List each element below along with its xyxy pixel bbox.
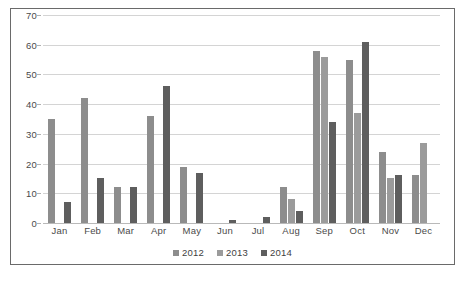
legend-label-2013: 2013: [226, 247, 248, 258]
bar-group-nov: [374, 15, 407, 223]
legend-swatch-2014-icon: [261, 250, 267, 256]
bar-2014-may: [196, 173, 203, 224]
bar-2012-may: [180, 167, 187, 223]
legend-swatch-2013-icon: [217, 250, 223, 256]
y-tick-label-60: 60: [26, 39, 37, 50]
bar-group-jun: [208, 15, 241, 223]
legend-item-2013[interactable]: 2013: [217, 247, 248, 258]
y-tick-mark-50: [37, 74, 41, 75]
y-tick-mark-70: [37, 15, 41, 16]
y-tick-mark-10: [37, 193, 41, 194]
bar-group-sep: [308, 15, 341, 223]
x-tick-label-nov: Nov: [382, 225, 400, 236]
legend-label-2012: 2012: [182, 247, 204, 258]
y-tick-mark-20: [37, 164, 41, 165]
bar-group-dec: [407, 15, 440, 223]
x-axis: JanFebMarAprMayJunJulAugSepOctNovDec: [43, 225, 440, 243]
bar-group-jul: [242, 15, 275, 223]
bar-2013-aug: [288, 199, 295, 223]
y-tick-label-50: 50: [26, 69, 37, 80]
bar-2014-jul: [263, 217, 270, 223]
bar-2012-sep: [313, 51, 320, 223]
y-tick-label-20: 20: [26, 158, 37, 169]
bar-2012-mar: [114, 187, 121, 223]
legend-item-2014[interactable]: 2014: [261, 247, 292, 258]
x-tick-label-mar: Mar: [117, 225, 134, 236]
x-tick-label-oct: Oct: [350, 225, 365, 236]
x-tick-label-feb: Feb: [84, 225, 101, 236]
y-tick-mark-30: [37, 134, 41, 135]
bar-2012-dec: [412, 175, 419, 223]
x-tick-label-jan: Jan: [52, 225, 68, 236]
legend-swatch-2012-icon: [173, 250, 179, 256]
bars-layer: [43, 15, 440, 223]
y-axis: 010203040506070: [11, 15, 41, 223]
bar-2012-aug: [280, 187, 287, 223]
bar-group-mar: [109, 15, 142, 223]
y-tick-mark-60: [37, 45, 41, 46]
chart-legend: 201220132014: [11, 247, 454, 258]
y-tick-label-70: 70: [26, 10, 37, 21]
bar-2012-oct: [346, 60, 353, 223]
x-tick-label-apr: Apr: [151, 225, 166, 236]
y-tick-mark-0: [37, 223, 41, 224]
bar-2014-apr: [163, 86, 170, 223]
bar-2012-apr: [147, 116, 154, 223]
bar-2013-sep: [321, 57, 328, 223]
bar-2014-mar: [130, 187, 137, 223]
legend-item-2012[interactable]: 2012: [173, 247, 204, 258]
x-tick-label-jul: Jul: [252, 225, 265, 236]
bar-2014-nov: [395, 175, 402, 223]
y-tick-label-10: 10: [26, 188, 37, 199]
x-tick-label-jun: Jun: [217, 225, 233, 236]
chart-container: 010203040506070 JanFebMarAprMayJunJulAug…: [10, 8, 455, 265]
bar-2014-oct: [362, 42, 369, 223]
x-tick-label-may: May: [183, 225, 202, 236]
y-tick-label-30: 30: [26, 128, 37, 139]
bar-2012-nov: [379, 152, 386, 223]
bar-2014-jan: [64, 202, 71, 223]
bar-2014-feb: [97, 178, 104, 223]
bar-2014-jun: [229, 220, 236, 223]
bar-group-apr: [142, 15, 175, 223]
plot-area: [43, 15, 440, 223]
y-tick-mark-40: [37, 104, 41, 105]
bar-2013-dec: [420, 143, 427, 223]
bar-2013-nov: [387, 178, 394, 223]
bar-2012-feb: [81, 98, 88, 223]
bar-2014-sep: [329, 122, 336, 223]
x-tick-label-dec: Dec: [415, 225, 433, 236]
bar-2013-oct: [354, 113, 361, 223]
y-tick-label-40: 40: [26, 99, 37, 110]
x-tick-label-aug: Aug: [282, 225, 300, 236]
legend-label-2014: 2014: [270, 247, 292, 258]
gridline-0: [43, 223, 440, 224]
bar-2014-aug: [296, 211, 303, 223]
bar-group-may: [175, 15, 208, 223]
bar-group-oct: [341, 15, 374, 223]
bar-group-feb: [76, 15, 109, 223]
x-tick-label-sep: Sep: [315, 225, 333, 236]
bar-group-jan: [43, 15, 76, 223]
bar-2012-jan: [48, 119, 55, 223]
bar-group-aug: [275, 15, 308, 223]
